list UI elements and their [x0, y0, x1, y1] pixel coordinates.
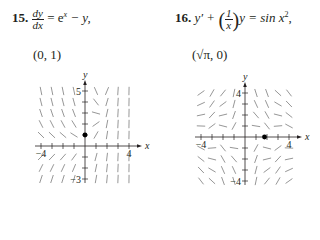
slope-segment — [254, 100, 258, 108]
slope-segment — [118, 98, 119, 106]
slope-segment — [264, 167, 271, 172]
slope-segment — [285, 124, 292, 128]
slope-segment — [72, 164, 75, 172]
slope-segment — [219, 114, 227, 116]
slope-segment — [106, 109, 108, 117]
slope-segment — [51, 98, 53, 106]
slope-segment — [62, 109, 65, 117]
tick-label: 4 — [236, 88, 241, 99]
slope-segment — [50, 164, 54, 172]
slope-segment — [265, 111, 269, 118]
slope-segment — [276, 167, 281, 174]
slope-segment — [72, 154, 77, 161]
slope-segment — [220, 101, 227, 106]
slope-segment — [40, 175, 43, 183]
slope-segment — [51, 175, 54, 183]
slope-segment — [219, 125, 227, 127]
slope-segment — [92, 112, 100, 114]
tick-label: 4 — [127, 148, 132, 159]
slope-segment — [70, 133, 77, 137]
slope-segment — [118, 87, 119, 95]
slope-segment — [94, 131, 98, 138]
slope-segment — [38, 132, 44, 138]
slope-segment — [39, 164, 43, 172]
slope-segment — [198, 178, 203, 185]
slope-segment — [40, 98, 42, 106]
slope-segment — [94, 87, 97, 95]
slope-segment — [106, 98, 108, 106]
slope-segment — [95, 153, 97, 161]
slope-segment — [274, 102, 281, 106]
slope-segment — [210, 101, 215, 108]
slope-segment — [106, 131, 107, 139]
slope-segment — [62, 87, 64, 95]
slope-segment — [266, 89, 269, 97]
x-axis-arrow-icon — [297, 135, 302, 139]
tick-label: −4 — [230, 176, 241, 187]
slope-segment — [50, 120, 54, 127]
slope-segment — [210, 89, 214, 96]
slope-segment — [105, 87, 108, 95]
slope-segment — [93, 99, 98, 106]
slope-segment — [231, 156, 236, 162]
slope-segment — [62, 175, 65, 183]
slope-segment — [107, 164, 108, 172]
y-axis-arrow-icon — [83, 80, 87, 85]
slope-segment — [49, 132, 55, 138]
slope-segment — [233, 111, 236, 119]
slope-segment — [285, 158, 293, 160]
slope-segment — [275, 145, 282, 150]
slope-segment — [209, 112, 215, 118]
slope-segment — [263, 147, 271, 149]
slope-segment — [61, 164, 65, 172]
slope-segment — [255, 166, 257, 174]
slope-segment — [208, 168, 215, 172]
slope-segment — [73, 98, 75, 106]
slope-segment — [274, 126, 282, 127]
slope-segment — [51, 109, 54, 117]
y-axis-arrow-icon — [243, 82, 247, 87]
slope-segment — [265, 100, 268, 108]
slope-segment — [263, 158, 271, 160]
slope-segment — [221, 166, 224, 174]
slope-segment — [107, 153, 108, 161]
x-axis-label: x — [304, 131, 310, 142]
slope-segment — [286, 112, 293, 117]
slope-segment — [197, 102, 205, 106]
slope-segment — [60, 154, 66, 160]
slope-segment — [62, 98, 64, 106]
slope-segment — [221, 155, 225, 162]
slope-segment — [252, 125, 260, 126]
slope-segment — [232, 122, 236, 129]
slope-segment — [198, 167, 204, 173]
slope-segment — [106, 120, 108, 128]
slope-segment — [264, 123, 269, 130]
slope-segment — [222, 177, 225, 185]
slope-segment — [275, 156, 281, 162]
slope-segment — [208, 148, 216, 149]
slope-segment — [209, 123, 216, 128]
initial-point-marker — [83, 133, 88, 138]
slope-segment — [95, 175, 96, 183]
slope-segment — [232, 166, 236, 174]
slope-segment — [197, 114, 205, 116]
slope-segment — [61, 120, 65, 127]
slope-segment — [276, 177, 280, 184]
slope-segment — [286, 101, 292, 107]
slope-segment — [51, 87, 53, 95]
tick-label: −4 — [36, 148, 47, 159]
slope-segment — [72, 120, 76, 127]
slope-segment — [60, 132, 66, 137]
slope-segment — [93, 122, 100, 127]
slope-segment — [220, 145, 225, 152]
slope-segment — [253, 112, 258, 118]
slope-segment — [233, 89, 235, 97]
slope-segment — [95, 164, 97, 172]
slope-segment — [208, 158, 216, 160]
y-axis-label: y — [82, 69, 88, 80]
slope-segment — [264, 178, 269, 185]
slope-segment — [275, 90, 281, 96]
slope-segment — [73, 109, 76, 117]
tick-label: −4 — [196, 139, 207, 150]
tick-label: 5 — [76, 86, 81, 97]
